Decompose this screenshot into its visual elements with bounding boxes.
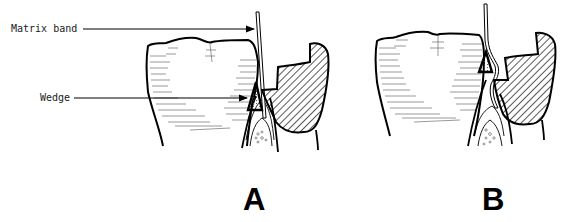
molar-crown-b xyxy=(376,32,485,136)
adjacent-tooth-prep-a xyxy=(262,43,329,150)
panel-b xyxy=(376,4,556,146)
bone-stipple-a xyxy=(255,131,267,143)
panel-a xyxy=(147,12,329,152)
leader-lines xyxy=(74,29,254,98)
wedge-label: Wedge xyxy=(40,92,70,104)
panel-letter-b: B xyxy=(482,184,504,215)
panel-letter-a: A xyxy=(243,184,265,215)
molar-crown-a xyxy=(147,38,259,146)
adjacent-tooth-prep-b xyxy=(494,33,556,140)
bone-stipple-b xyxy=(483,129,495,145)
matrix-band-label: Matrix band xyxy=(11,23,77,35)
